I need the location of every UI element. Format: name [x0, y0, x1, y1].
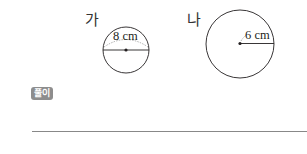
answer-line: [32, 131, 307, 132]
solution-badge: 풀이: [31, 87, 53, 100]
figure-label-ga: 가: [85, 8, 99, 29]
radius-label: 6 cm: [245, 28, 270, 42]
diameter-label: 8 cm: [113, 29, 138, 43]
figure-label-na: 나: [187, 8, 201, 29]
circle-ga: 8 cm: [100, 24, 152, 76]
circle-na: 6 cm: [204, 8, 276, 80]
